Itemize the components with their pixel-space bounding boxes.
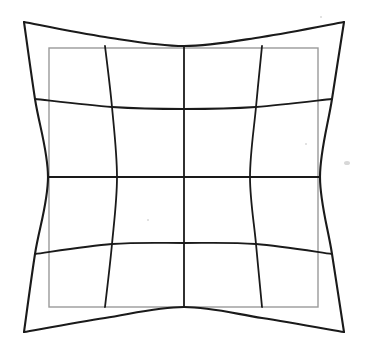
figure-canvas xyxy=(0,0,366,352)
scan-speck xyxy=(320,16,322,18)
figure-background xyxy=(0,0,366,352)
scan-speck xyxy=(305,143,307,145)
distortion-diagram xyxy=(0,0,366,352)
scan-speck xyxy=(344,161,350,165)
scan-speck xyxy=(147,219,149,221)
